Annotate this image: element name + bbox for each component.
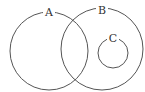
circle-b	[61, 8, 143, 90]
label-a: A	[44, 6, 54, 19]
label-b: B	[98, 4, 106, 17]
circle-a	[10, 12, 88, 90]
label-c: C	[109, 32, 117, 45]
venn-diagram: A B C	[0, 0, 145, 92]
